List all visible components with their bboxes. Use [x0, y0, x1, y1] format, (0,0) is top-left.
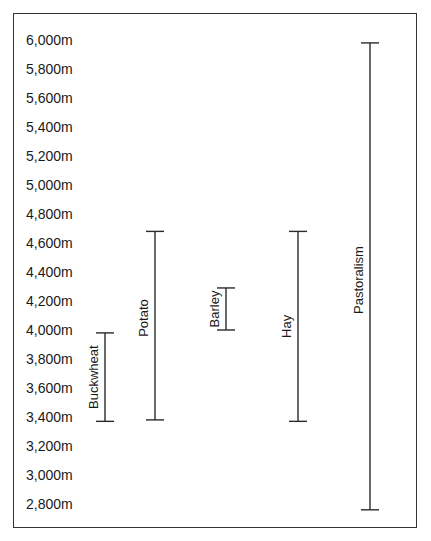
- range-label: Barley: [207, 290, 222, 327]
- range-label: Buckwheat: [86, 345, 101, 409]
- range-hay: Hay: [279, 231, 307, 421]
- y-tick-label: 5,400m: [26, 119, 73, 135]
- range-label: Pastoralism: [351, 246, 366, 314]
- range-pastoralism: Pastoralism: [351, 43, 379, 510]
- y-tick-label: 5,000m: [26, 177, 73, 193]
- range-bars: BuckwheatPotatoBarleyHayPastoralism: [86, 43, 379, 510]
- y-tick-label: 5,600m: [26, 90, 73, 106]
- altitude-range-chart: 6,000m5,800m5,600m5,400m5,200m5,000m4,80…: [0, 0, 431, 541]
- range-label: Potato: [136, 299, 151, 337]
- y-tick-label: 4,800m: [26, 206, 73, 222]
- range-label: Hay: [279, 314, 294, 338]
- y-tick-label: 5,200m: [26, 148, 73, 164]
- range-barley: Barley: [207, 288, 235, 330]
- plot-area: 6,000m5,800m5,600m5,400m5,200m5,000m4,80…: [0, 0, 431, 541]
- y-tick-label: 4,200m: [26, 293, 73, 309]
- y-tick-label: 3,200m: [26, 438, 73, 454]
- y-tick-label: 3,800m: [26, 351, 73, 367]
- range-buckwheat: Buckwheat: [86, 333, 114, 421]
- y-tick-label: 3,400m: [26, 409, 73, 425]
- y-tick-label: 4,600m: [26, 235, 73, 251]
- y-tick-label: 3,000m: [26, 467, 73, 483]
- range-potato: Potato: [136, 231, 164, 420]
- y-tick-label: 6,000m: [26, 32, 73, 48]
- y-tick-label: 5,800m: [26, 61, 73, 77]
- y-axis-tick-labels: 6,000m5,800m5,600m5,400m5,200m5,000m4,80…: [26, 32, 73, 512]
- y-tick-label: 3,600m: [26, 380, 73, 396]
- y-tick-label: 4,400m: [26, 264, 73, 280]
- y-tick-label: 4,000m: [26, 322, 73, 338]
- y-tick-label: 2,800m: [26, 496, 73, 512]
